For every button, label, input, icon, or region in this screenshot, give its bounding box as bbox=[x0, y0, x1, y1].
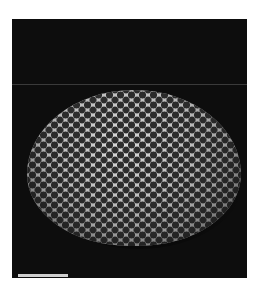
dome-rim-shading bbox=[27, 90, 241, 246]
scan-line-artifact bbox=[12, 84, 247, 85]
specimen-dome bbox=[27, 90, 241, 246]
scale-bar bbox=[18, 274, 68, 277]
micrograph-panel bbox=[12, 19, 247, 278]
